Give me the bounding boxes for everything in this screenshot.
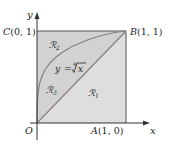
y-axis-arrow-icon — [35, 12, 40, 19]
origin-label: O — [25, 125, 33, 136]
point-c-label: C(0, 1) — [3, 26, 36, 37]
svg-text:y =: y = — [54, 64, 72, 74]
x-axis-label: x — [150, 125, 156, 136]
point-a-label: A(1, 0) — [90, 125, 123, 136]
radicand: x — [78, 64, 83, 74]
x-axis-arrow-icon — [143, 121, 150, 126]
point-b-label: B(1, 1) — [129, 26, 163, 37]
diagram-canvas: y x O C(0, 1) B(1, 1) A(1, 0) ℛ2 ℛ3 ℛ1 y… — [0, 0, 173, 147]
y-axis-label: y — [26, 9, 33, 20]
